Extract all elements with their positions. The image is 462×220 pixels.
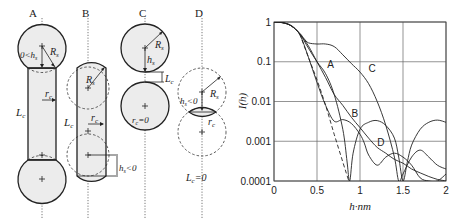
- curve-label-c: C: [369, 63, 376, 74]
- grid: [274, 22, 446, 181]
- y-tick-label: 0.1: [257, 56, 271, 67]
- y-tick-label: 0.001: [246, 136, 271, 147]
- panel-c: C Rs hs Lc rc=0: [121, 7, 175, 218]
- curve-label-a: A: [327, 59, 334, 70]
- y-axis-label: I(h): [236, 92, 249, 110]
- label-rs: Rs: [209, 88, 219, 101]
- label-lc: Lc: [15, 106, 26, 120]
- panel-label-d: D: [195, 7, 203, 19]
- label-lc: Lc: [164, 73, 175, 86]
- panel-d: D Rs hs<0 rc Lc=0: [178, 7, 226, 218]
- x-axis-label: h·nm: [349, 200, 371, 212]
- x-tick-label: 0: [271, 185, 277, 196]
- x-tick-label: 2: [443, 185, 449, 196]
- curve-label-b: B: [351, 108, 358, 119]
- x-tick-label: 1.5: [396, 185, 410, 196]
- panel-label-a: A: [29, 7, 37, 19]
- panel-label-c: C: [139, 7, 146, 19]
- label-rc: rc: [208, 116, 216, 129]
- x-tick-labels: 00.511.52: [271, 185, 449, 196]
- x-tick-label: 1: [357, 185, 363, 196]
- label-lc: Lc: [63, 116, 74, 130]
- y-tick-label: 0.01: [252, 96, 272, 107]
- label-hs: hs<0: [119, 163, 137, 174]
- label-hs: hs<0: [180, 96, 198, 107]
- y-tick-label: 1: [265, 17, 271, 28]
- intensity-chart: 10.10.010.0010.0001 00.511.52 ABCD h·nm …: [236, 17, 449, 213]
- x-tick-label: 0.5: [310, 185, 324, 196]
- y-tick-label: 0.0001: [240, 176, 271, 187]
- label-lc: Lc=0: [185, 172, 206, 185]
- curve-label-d: D: [377, 137, 384, 148]
- label-rc: rc=0: [132, 115, 149, 126]
- figure: A 0<hs Rs rc Lc B: [0, 0, 462, 220]
- curve-gaussian-approx-: [300, 34, 349, 181]
- panel-a: A 0<hs Rs rc Lc: [15, 7, 66, 218]
- curve-labels: ABCD: [327, 59, 384, 148]
- panel-label-b: B: [82, 7, 89, 19]
- cylinder: [28, 68, 56, 160]
